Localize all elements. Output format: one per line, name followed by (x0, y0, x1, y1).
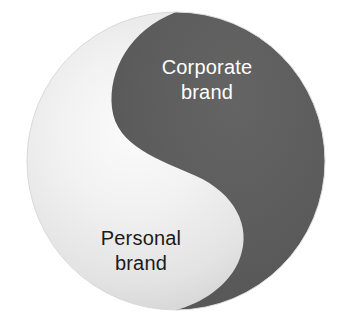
corporate-brand-label-line1: Corporate (162, 56, 253, 78)
personal-brand-label-line1: Personal (101, 227, 182, 249)
personal-brand-label-line2: brand (115, 252, 167, 274)
corporate-brand-label-line2: brand (181, 81, 233, 103)
yinyang-svg: Corporate brand Personal brand (0, 0, 347, 328)
brand-yinyang-diagram: Corporate brand Personal brand (0, 0, 347, 328)
